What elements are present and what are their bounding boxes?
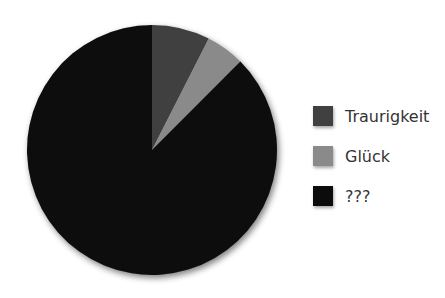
legend-item-unknown: ??? — [313, 176, 429, 216]
legend-swatch — [313, 106, 333, 126]
legend-item-glueck: Glück — [313, 136, 429, 176]
legend-swatch — [313, 186, 333, 206]
legend: Traurigkeit Glück ??? — [313, 96, 429, 216]
legend-item-traurigkeit: Traurigkeit — [313, 96, 429, 136]
legend-swatch — [313, 146, 333, 166]
legend-label: ??? — [345, 187, 370, 206]
legend-label: Traurigkeit — [345, 107, 429, 126]
pie-chart — [0, 0, 300, 298]
legend-label: Glück — [345, 147, 390, 166]
